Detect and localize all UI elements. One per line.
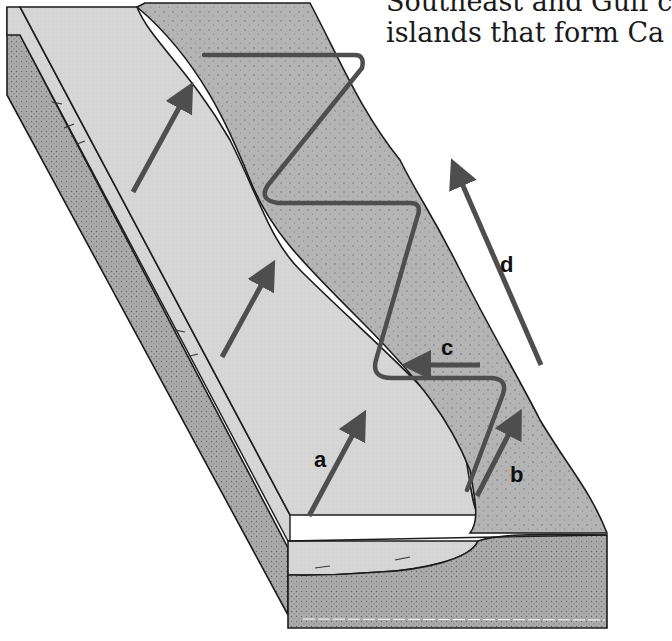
label-c: c bbox=[441, 335, 453, 360]
label-d: d bbox=[500, 252, 513, 277]
label-b: b bbox=[510, 462, 523, 487]
label-a: a bbox=[314, 447, 327, 472]
